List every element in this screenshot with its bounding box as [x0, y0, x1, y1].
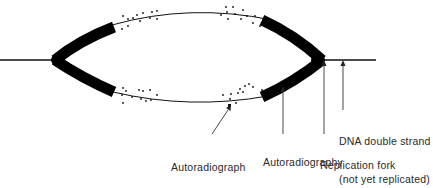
left-fork-upper-arm: [55, 27, 114, 60]
left-fork-junction: [51, 54, 65, 66]
upper-thin-strand: [112, 13, 272, 25]
right-fork-lower-arm: [262, 60, 322, 97]
label-high-activity: Autoradiography shows high specific acti…: [263, 131, 343, 188]
label-line: Autoradiograph: [171, 161, 246, 174]
pointer-arrows: [212, 60, 346, 134]
right-fork-upper-arm: [262, 20, 322, 60]
label-low-activity: Autoradiograph shows low specific activi…: [171, 136, 246, 188]
left-fork-lower-arm: [55, 60, 114, 92]
label-dots: [121, 6, 263, 107]
arrow-low-activity: [212, 110, 228, 134]
lower-thin-strand: [113, 92, 268, 102]
label-line: Autoradiography: [263, 156, 343, 169]
